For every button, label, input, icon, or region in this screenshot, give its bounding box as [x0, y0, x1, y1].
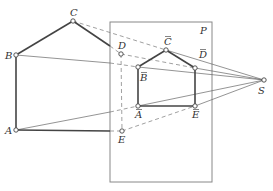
- label-d: D: [117, 40, 126, 51]
- projection-diagram: A B C D E A B C D E S P: [0, 0, 273, 191]
- label-c: C: [70, 7, 78, 18]
- original-pentagon: [16, 21, 122, 131]
- point-c-bar: [164, 48, 168, 52]
- point-a: [14, 128, 18, 132]
- label-e-bar: E: [191, 109, 200, 120]
- label-p: P: [199, 25, 207, 36]
- point-a-bar: [136, 104, 140, 108]
- point-d: [119, 52, 123, 56]
- point-b-bar: [136, 65, 140, 69]
- point-e-bar: [193, 104, 197, 108]
- point-c: [71, 19, 75, 23]
- label-a-bar: A: [134, 109, 142, 120]
- label-e: E: [117, 134, 126, 145]
- label-d-bar: D: [198, 49, 207, 60]
- point-s: [262, 78, 266, 82]
- label-a: A: [4, 125, 12, 136]
- point-b: [14, 53, 18, 57]
- label-b: B: [4, 50, 12, 61]
- point-d-bar: [193, 66, 197, 70]
- label-s: S: [258, 85, 265, 96]
- label-b-bar: B: [139, 72, 147, 83]
- label-c-bar: C: [164, 36, 172, 47]
- point-e: [120, 129, 124, 133]
